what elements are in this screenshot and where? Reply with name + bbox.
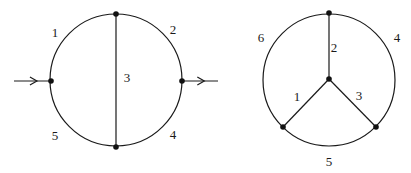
vertex-center: [326, 76, 332, 82]
vertex-bottom: [113, 144, 119, 150]
outgoing-arrow: [182, 77, 218, 85]
vertex-bottom-left: [280, 124, 286, 130]
vertex-right: [179, 78, 185, 84]
right-diagram: 624135: [258, 10, 401, 169]
vertex-left: [48, 78, 54, 84]
edge-label: 3: [356, 88, 363, 103]
edge-label: 2: [170, 22, 177, 37]
edge-label: 1: [294, 89, 301, 104]
vertex-top: [113, 11, 119, 17]
edge-label: 3: [124, 70, 131, 85]
edge-label: 4: [170, 127, 177, 142]
vertex-bottom-right: [373, 124, 379, 130]
diagram-canvas: 12345624135: [0, 0, 411, 173]
edge-label: 2: [331, 40, 338, 55]
spoke-edge: [283, 79, 329, 127]
edge-label: 6: [258, 30, 265, 45]
vertex-top: [326, 10, 332, 16]
incoming-arrow: [14, 77, 51, 85]
edge-label: 1: [52, 25, 59, 40]
edge-label: 4: [394, 30, 401, 45]
edge-label: 5: [326, 154, 333, 169]
edge-label: 5: [52, 128, 59, 143]
spoke-edge: [329, 79, 376, 127]
left-diagram: 12345: [14, 11, 218, 150]
